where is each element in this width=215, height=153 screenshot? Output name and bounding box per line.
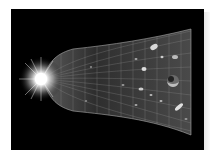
expansion-artwork	[11, 9, 204, 150]
big-bang-flash	[19, 57, 63, 101]
universe-expansion-illustration	[11, 9, 204, 150]
cosmos-bell	[43, 29, 191, 139]
frame-shadow	[204, 12, 210, 150]
planet	[167, 75, 179, 87]
